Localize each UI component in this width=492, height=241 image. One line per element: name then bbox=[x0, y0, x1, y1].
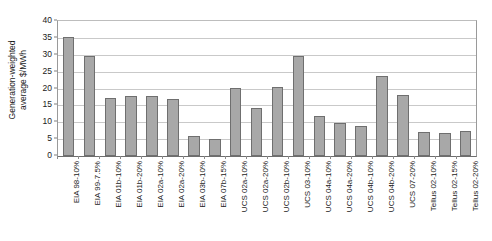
y-axis-tick-label: 10 bbox=[43, 117, 52, 126]
y-axis-tick-label: 40 bbox=[43, 16, 52, 25]
bar bbox=[293, 56, 304, 156]
x-axis-tick-slot bbox=[99, 156, 120, 160]
x-axis-tick-mark bbox=[372, 156, 373, 159]
x-axis-tick-slot bbox=[414, 156, 435, 160]
x-axis-label-slot: UCS 04b-10% bbox=[350, 161, 371, 239]
x-axis-label-slot: EIA 02a-20% bbox=[162, 161, 183, 239]
bar-slot bbox=[163, 21, 184, 156]
x-axis-tick-slot bbox=[78, 156, 99, 160]
x-axis-tick-mark bbox=[456, 156, 457, 159]
x-axis-tick-mark bbox=[435, 156, 436, 159]
y-axis-tick-label: 0 bbox=[47, 151, 52, 160]
bar-slot bbox=[434, 21, 455, 156]
x-axis-tick-slot bbox=[162, 156, 183, 160]
bar bbox=[397, 95, 408, 156]
x-axis-label-slot: EIA 03b-10% bbox=[183, 161, 204, 239]
bar bbox=[125, 96, 136, 156]
x-axis-tick-slot bbox=[141, 156, 162, 160]
bars-container bbox=[58, 21, 476, 156]
x-axis-label-slot: UCS 02a-20% bbox=[246, 161, 267, 239]
x-axis-tick-slot bbox=[351, 156, 372, 160]
x-axis-tick-slot bbox=[183, 156, 204, 160]
x-axis-tick-mark bbox=[267, 156, 268, 159]
bar-slot bbox=[413, 21, 434, 156]
bar bbox=[439, 133, 450, 156]
y-axis-tick-labels: 0510152025303540 bbox=[34, 14, 54, 156]
bar-slot bbox=[455, 21, 476, 156]
bar-slot bbox=[351, 21, 372, 156]
bar-chart: Generation-weighted average $/MWh 051015… bbox=[0, 0, 492, 241]
x-axis-label-slot: UCS 07-20% bbox=[392, 161, 413, 239]
x-axis-tick-mark bbox=[57, 156, 58, 159]
bar bbox=[460, 131, 471, 156]
bar bbox=[334, 123, 345, 156]
bar-slot bbox=[330, 21, 351, 156]
x-axis-tick-slot bbox=[120, 156, 141, 160]
y-axis-tick-label: 35 bbox=[43, 32, 52, 41]
x-axis-tick-mark bbox=[204, 156, 205, 159]
x-axis-tick-slot bbox=[393, 156, 414, 160]
plot-area bbox=[57, 20, 477, 157]
bar-slot bbox=[372, 21, 393, 156]
x-axis-tick-slot bbox=[330, 156, 351, 160]
x-axis-tick-mark bbox=[78, 156, 79, 159]
bar-slot bbox=[225, 21, 246, 156]
x-axis-label-slot: EIA 01b-10% bbox=[99, 161, 120, 239]
bar-slot bbox=[309, 21, 330, 156]
bar-slot bbox=[246, 21, 267, 156]
x-axis-label-slot: EIA 98-10% bbox=[57, 161, 78, 239]
y-axis-title: Generation-weighted average $/MWh bbox=[0, 0, 36, 160]
bar bbox=[105, 98, 116, 156]
bar-slot bbox=[58, 21, 79, 156]
x-axis-tick-mark bbox=[246, 156, 247, 159]
x-axis-tick-slot bbox=[204, 156, 225, 160]
x-axis-label-slot: EIA 01b-20% bbox=[120, 161, 141, 239]
x-axis-tick-slot bbox=[225, 156, 246, 160]
x-axis-tick-mark bbox=[225, 156, 226, 159]
x-axis-label-slot: Tellus 02-10% bbox=[413, 161, 434, 239]
bar-slot bbox=[183, 21, 204, 156]
x-axis-tick-slot bbox=[288, 156, 309, 160]
bar bbox=[230, 88, 241, 156]
bar bbox=[355, 126, 366, 156]
bar-slot bbox=[121, 21, 142, 156]
bar bbox=[376, 76, 387, 156]
bar-slot bbox=[204, 21, 225, 156]
x-axis-label-slot: UCS 04a-10% bbox=[308, 161, 329, 239]
bar bbox=[251, 108, 262, 156]
bar bbox=[188, 136, 199, 156]
x-axis-tick-slot bbox=[435, 156, 456, 160]
bar-slot bbox=[267, 21, 288, 156]
x-axis-tick-slot bbox=[456, 156, 477, 160]
x-axis-tick-mark bbox=[99, 156, 100, 159]
bar bbox=[146, 96, 157, 156]
x-axis-tick-marks bbox=[57, 156, 477, 160]
x-axis-label-slot: EIA 02a-10% bbox=[141, 161, 162, 239]
bar bbox=[209, 139, 220, 156]
x-axis-label-slot: UCS 04a-20% bbox=[329, 161, 350, 239]
y-axis-title-line-2: average $/MWh bbox=[18, 41, 29, 120]
x-axis-label-slot: UCS 02a-10% bbox=[225, 161, 246, 239]
bar-slot bbox=[79, 21, 100, 156]
y-axis-tick-label: 30 bbox=[43, 49, 52, 58]
x-axis-label-slot: UCS 04b-20% bbox=[371, 161, 392, 239]
x-axis-label-slot: UCS 03-10% bbox=[287, 161, 308, 239]
bar bbox=[63, 37, 74, 156]
bar bbox=[272, 87, 283, 156]
x-axis-tick-slot bbox=[57, 156, 78, 160]
x-axis-tick-slot bbox=[309, 156, 330, 160]
bar bbox=[84, 56, 95, 156]
x-axis-tick-mark bbox=[120, 156, 121, 159]
x-axis-tick-mark bbox=[162, 156, 163, 159]
x-axis-tick-label: Tellus 02-20% bbox=[470, 161, 479, 211]
x-axis-tick-mark bbox=[141, 156, 142, 159]
bar-slot bbox=[142, 21, 163, 156]
x-axis-tick-mark bbox=[288, 156, 289, 159]
x-axis-label-slot: Tellus 02-15% bbox=[434, 161, 455, 239]
x-axis-tick-mark bbox=[351, 156, 352, 159]
x-axis-label-slot: EIA 99-7.5% bbox=[78, 161, 99, 239]
y-axis-tick-label: 5 bbox=[47, 134, 52, 143]
y-axis-tick-label: 20 bbox=[43, 83, 52, 92]
x-axis-tick-labels: EIA 98-10%EIA 99-7.5%EIA 01b-10%EIA 01b-… bbox=[57, 161, 476, 239]
x-axis-tick-mark bbox=[393, 156, 394, 159]
